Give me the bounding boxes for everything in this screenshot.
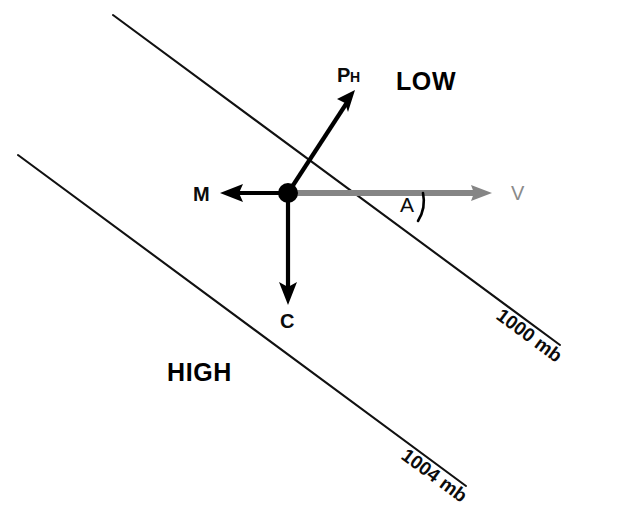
isobar-label-group: 1000 mb 1004 mb <box>398 304 567 506</box>
vector-ph-shaft <box>288 101 348 193</box>
vector-m-group: M <box>193 183 288 205</box>
isobar-line-1004 <box>18 155 466 486</box>
angle-a-label: A <box>400 193 414 216</box>
low-pressure-label: LOW <box>396 67 456 95</box>
vector-c-group: C <box>279 193 297 332</box>
vector-ph-subscript: H <box>350 69 360 85</box>
vector-v-arrowhead <box>471 185 492 201</box>
vector-ph-label: P <box>337 64 350 86</box>
high-pressure-label: HIGH <box>167 358 232 386</box>
vector-v-label: V <box>511 182 525 204</box>
air-parcel-dot <box>278 183 298 203</box>
isobar-label-1004: 1004 mb <box>398 444 472 506</box>
vector-m-label: M <box>193 183 210 205</box>
vector-c-label: C <box>280 310 294 332</box>
pressure-center-label-group: LOW HIGH <box>167 67 456 386</box>
isobar-label-1000: 1000 mb <box>493 304 567 366</box>
vector-ph-arrowhead <box>337 90 355 112</box>
angle-a-arc <box>418 193 424 221</box>
vector-ph-group: P H <box>288 64 360 193</box>
diagram-canvas: 1000 mb 1004 mb LOW HIGH V A P H <box>0 0 620 518</box>
angle-a-group: A <box>400 193 424 221</box>
force-balance-diagram: 1000 mb 1004 mb LOW HIGH V A P H <box>0 0 620 518</box>
